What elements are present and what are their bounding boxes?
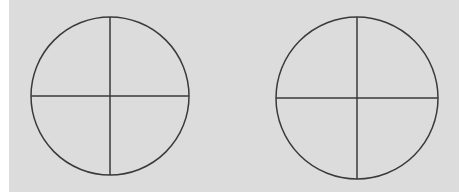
circle-crosshair-right bbox=[276, 17, 438, 179]
circle-crosshair-left bbox=[31, 17, 189, 175]
diagram-canvas bbox=[0, 0, 468, 192]
